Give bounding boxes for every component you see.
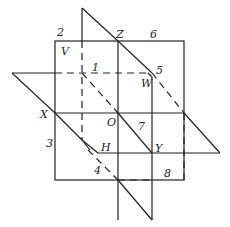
label-h: H — [100, 141, 111, 154]
label-region-5: 5 — [156, 64, 163, 77]
plane-diagram: V Z W X O H Y 1 2 3 4 5 6 7 8 — [0, 0, 230, 227]
label-region-8: 8 — [164, 167, 171, 180]
label-o: O — [107, 116, 116, 129]
w-diagonal-hidden — [152, 73, 184, 113]
label-region-4: 4 — [93, 164, 101, 177]
horizontal-plane-left-diagonal — [12, 73, 55, 113]
one-o-hidden-diagonal — [82, 73, 118, 113]
xh-diagonal — [55, 113, 82, 140]
label-region-7: 7 — [138, 120, 145, 133]
zw-diagonal — [118, 41, 152, 73]
label-z: Z — [115, 28, 124, 41]
four-hidden-diagonal — [88, 150, 118, 180]
label-x: X — [39, 108, 49, 121]
label-w: W — [141, 77, 154, 90]
square-plane — [55, 41, 184, 180]
label-v: V — [61, 45, 70, 58]
label-region-3: 3 — [46, 137, 53, 150]
label-region-1: 1 — [92, 61, 99, 74]
vertical-plane-diagonal-top — [82, 8, 118, 41]
label-region-2: 2 — [56, 26, 64, 39]
oy-diagonal — [118, 113, 152, 153]
label-region-6: 6 — [150, 28, 157, 41]
right-plane-diagonal — [184, 113, 220, 153]
h-corner — [82, 140, 98, 153]
bottom-diagonal — [118, 180, 152, 220]
